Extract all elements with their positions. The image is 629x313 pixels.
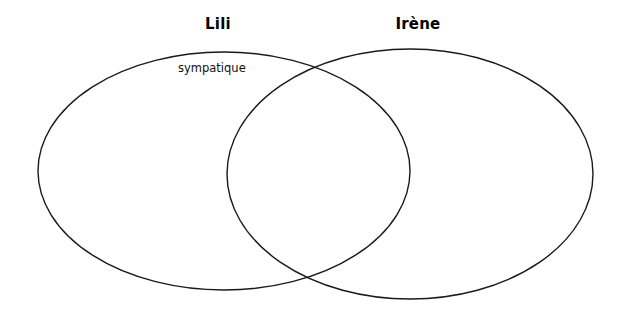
venn-diagram-canvas: Lili Irène sympatique [0, 0, 629, 313]
venn-set-title-right: Irène [389, 15, 447, 33]
venn-shapes [0, 0, 629, 313]
venn-item-label-sympatique[interactable]: sympatique [178, 61, 246, 75]
venn-set-title-left: Lili [196, 15, 240, 33]
venn-circle-left-lili[interactable] [38, 52, 410, 290]
